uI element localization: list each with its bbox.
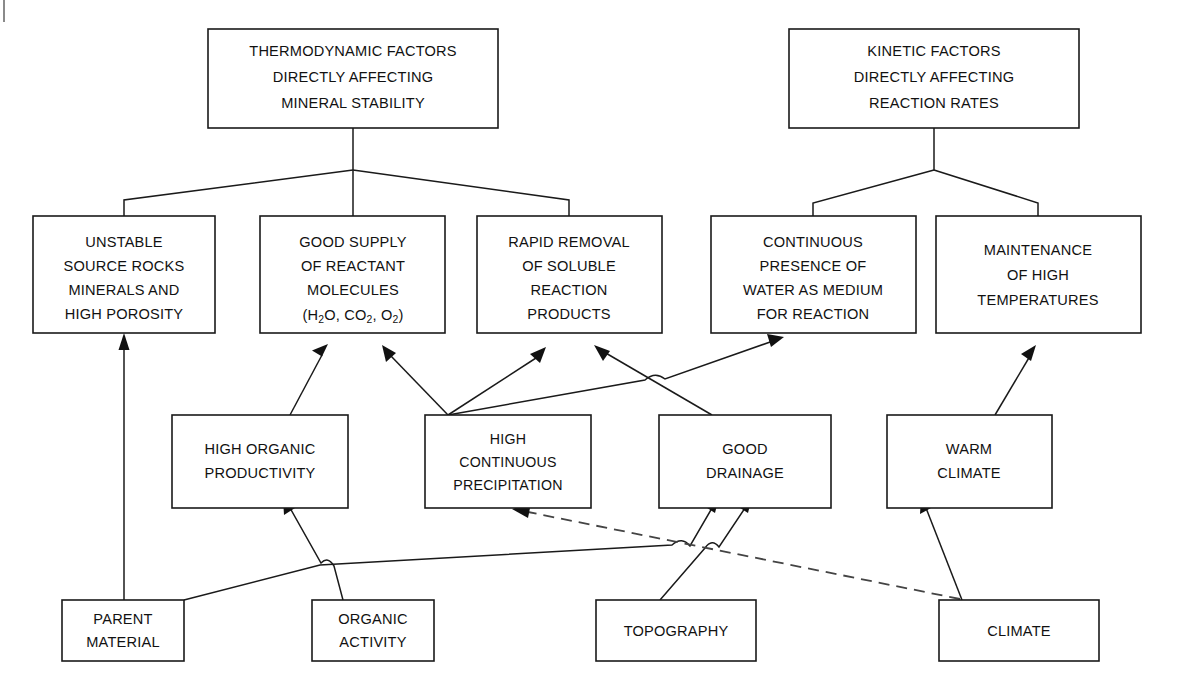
organic-activity-line-2: ACTIVITY	[339, 634, 406, 650]
connector-layer	[119, 128, 1039, 600]
warm-climate-box[interactable]: WARM CLIMATE	[887, 415, 1052, 508]
good-supply-line-1: GOOD SUPPLY	[299, 234, 406, 250]
connector-climate-to-warm-climate	[926, 508, 962, 600]
kinetic-factors-box[interactable]: KINETIC FACTORS DIRECTLY AFFECTING REACT…	[789, 29, 1079, 128]
organic-activity-line-1: ORGANIC	[338, 611, 408, 627]
good-drainage-box[interactable]: GOOD DRAINAGE	[659, 415, 831, 508]
good-drainage-line-1: GOOD	[722, 441, 767, 457]
kinetic-factors-line-3: REACTION RATES	[869, 95, 999, 111]
box-layer: THERMODYNAMIC FACTORS DIRECTLY AFFECTING…	[33, 29, 1141, 661]
warm-climate-box-rect	[887, 415, 1052, 508]
continuous-presence-of-water-box[interactable]: CONTINUOUS PRESENCE OF WATER AS MEDIUM F…	[711, 216, 916, 333]
topography-box[interactable]: TOPOGRAPHY	[596, 600, 756, 661]
thermodynamic-factors-line-1: THERMODYNAMIC FACTORS	[249, 43, 457, 59]
parent-material-line-1: PARENT	[93, 611, 152, 627]
connector-thermo-to-unstable	[124, 170, 353, 216]
connector-topography-to-drainage	[660, 508, 745, 600]
parent-material-line-2: MATERIAL	[86, 634, 160, 650]
good-drainage-box-rect	[659, 415, 831, 508]
connector-kinetic-to-temperature	[934, 170, 1038, 216]
unstable-source-rocks-box[interactable]: UNSTABLE SOURCE ROCKS MINERALS AND HIGH …	[33, 216, 215, 333]
rapid-removal-of-soluble-reaction-products-box[interactable]: RAPID REMOVAL OF SOLUBLE REACTION PRODUC…	[477, 216, 662, 333]
high-temperatures-line-2: OF HIGH	[1007, 267, 1069, 283]
continuous-water-line-3: WATER AS MEDIUM	[743, 282, 883, 298]
continuous-water-line-4: FOR REACTION	[757, 306, 870, 322]
connector-drainage-to-rapid-removal	[604, 352, 712, 415]
good-supply-formula-line: (H2O, CO2, O2)	[302, 307, 403, 325]
thermodynamic-factors-line-3: MINERAL STABILITY	[281, 95, 425, 111]
rapid-removal-line-3: REACTION	[530, 282, 607, 298]
connector-warm-climate-to-temperatures	[995, 356, 1030, 415]
unstable-source-rocks-line-3: MINERALS AND	[68, 282, 179, 298]
kinetic-factors-line-2: DIRECTLY AFFECTING	[854, 69, 1014, 85]
connector-parent-to-drainage	[184, 508, 712, 600]
high-temperatures-line-3: TEMPERATURES	[977, 292, 1098, 308]
weathering-factors-diagram: THERMODYNAMIC FACTORS DIRECTLY AFFECTING…	[0, 0, 1180, 692]
connector-precipitation-to-water	[448, 341, 773, 415]
rapid-removal-line-4: PRODUCTS	[527, 306, 611, 322]
high-continuous-precipitation-box[interactable]: HIGH CONTINUOUS PRECIPITATION	[425, 415, 591, 508]
good-supply-line-3: MOLECULES	[307, 282, 399, 298]
connector-thermo-to-rapid-removal	[353, 170, 569, 216]
organic-activity-box-rect	[312, 600, 434, 661]
arrowhead-precipitation-to-water	[767, 334, 784, 347]
high-continuous-precipitation-line-2: CONTINUOUS	[459, 454, 556, 470]
climate-box[interactable]: CLIMATE	[939, 600, 1099, 661]
rapid-removal-line-1: RAPID REMOVAL	[508, 234, 630, 250]
high-organic-productivity-line-2: PRODUCTIVITY	[204, 465, 315, 481]
good-supply-of-reactant-molecules-box[interactable]: GOOD SUPPLY OF REACTANT MOLECULES (H2O, …	[260, 216, 445, 333]
connector-organic-activity-to-productivity	[290, 508, 343, 600]
topography-line-1: TOPOGRAPHY	[624, 623, 729, 639]
organic-activity-box[interactable]: ORGANIC ACTIVITY	[312, 600, 434, 661]
warm-climate-line-2: CLIMATE	[937, 465, 1001, 481]
arrowhead-organic-productivity-to-good-supply	[312, 344, 328, 357]
thermodynamic-factors-line-2: DIRECTLY AFFECTING	[273, 69, 433, 85]
unstable-source-rocks-line-4: HIGH POROSITY	[65, 306, 184, 322]
good-supply-line-2: OF REACTANT	[301, 258, 405, 274]
unstable-source-rocks-line-2: SOURCE ROCKS	[64, 258, 185, 274]
high-organic-productivity-box[interactable]: HIGH ORGANIC PRODUCTIVITY	[172, 415, 348, 508]
parent-material-box[interactable]: PARENT MATERIAL	[62, 600, 184, 661]
unstable-source-rocks-line-1: UNSTABLE	[85, 234, 163, 250]
continuous-water-line-2: PRESENCE OF	[760, 258, 867, 274]
connector-kinetic-to-water	[813, 170, 934, 216]
thermodynamic-factors-box[interactable]: THERMODYNAMIC FACTORS DIRECTLY AFFECTING…	[208, 29, 498, 128]
high-temperatures-line-1: MAINTENANCE	[984, 242, 1092, 258]
high-continuous-precipitation-line-3: PRECIPITATION	[453, 477, 562, 493]
rapid-removal-line-2: OF SOLUBLE	[522, 258, 616, 274]
diagram-canvas: THERMODYNAMIC FACTORS DIRECTLY AFFECTING…	[0, 0, 1180, 692]
arrowhead-drainage-to-rapid-removal	[594, 345, 610, 361]
arrowhead-parent-to-unstable	[119, 333, 130, 350]
warm-climate-line-1: WARM	[946, 441, 992, 457]
climate-line-1: CLIMATE	[987, 623, 1051, 639]
high-continuous-precipitation-line-1: HIGH	[490, 431, 526, 447]
connector-climate-to-precipitation-dashed	[528, 512, 960, 599]
high-organic-productivity-box-rect	[172, 415, 348, 508]
parent-material-box-rect	[62, 600, 184, 661]
maintenance-of-high-temperatures-box[interactable]: MAINTENANCE OF HIGH TEMPERATURES	[936, 216, 1141, 333]
connector-organic-productivity-to-good-supply	[290, 355, 322, 415]
kinetic-factors-line-1: KINETIC FACTORS	[867, 43, 1000, 59]
connector-precipitation-to-good-supply	[390, 355, 448, 415]
high-organic-productivity-line-1: HIGH ORGANIC	[204, 441, 315, 457]
good-drainage-line-2: DRAINAGE	[706, 465, 784, 481]
arrowhead-warm-climate-to-temperatures	[1021, 345, 1036, 361]
continuous-water-line-1: CONTINUOUS	[763, 234, 863, 250]
